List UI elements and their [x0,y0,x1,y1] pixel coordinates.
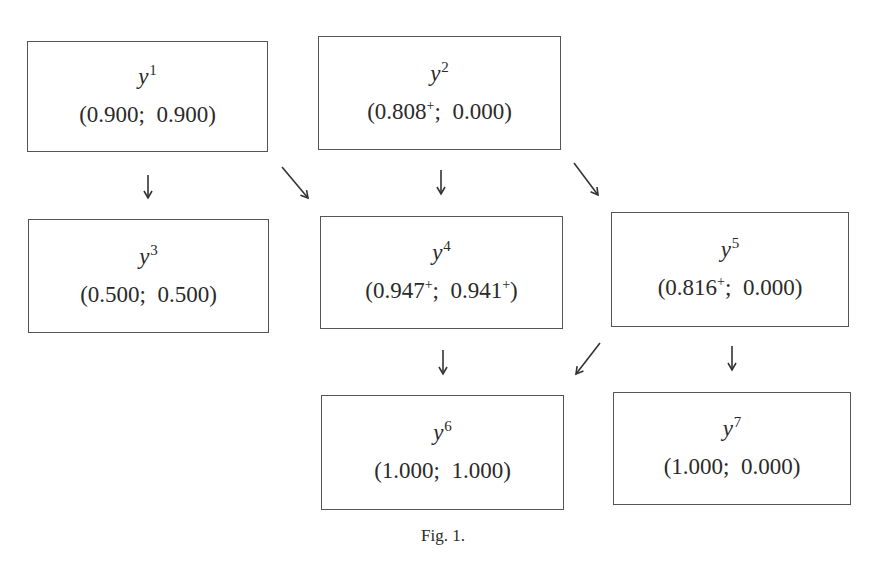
node-label: y4 [432,239,451,264]
figure-caption: Fig. 1. [343,526,543,546]
node-y3: y3 (0.500; 0.500) [28,219,269,333]
node-y4: y4 (0.947+; 0.941+) [320,216,563,329]
node-label: y2 [430,60,449,85]
node-label: y6 [433,419,452,444]
node-value: (0.947+; 0.941+) [365,278,518,302]
node-label: y1 [138,63,157,88]
node-label: y5 [721,236,740,261]
node-value: (0.808+; 0.000) [367,99,512,123]
arrow-y5-to-y6 [576,343,600,374]
node-y7: y7 (1.000; 0.000) [613,392,851,505]
node-label: y7 [723,415,742,440]
node-y2: y2 (0.808+; 0.000) [318,36,561,150]
node-value: (0.816+; 0.000) [658,275,803,299]
node-y6: y6 (1.000; 1.000) [321,395,564,510]
node-value: (1.000; 0.000) [664,454,801,478]
node-value: (0.500; 0.500) [80,282,217,306]
node-label: y3 [139,243,158,268]
node-y1: y1 (0.900; 0.900) [27,41,268,152]
arrow-y2-to-y5 [574,163,598,195]
node-y5: y5 (0.816+; 0.000) [611,212,849,327]
node-value: (1.000; 1.000) [374,458,511,482]
node-value: (0.900; 0.900) [79,102,216,126]
arrow-y1-to-y4 [282,167,308,198]
